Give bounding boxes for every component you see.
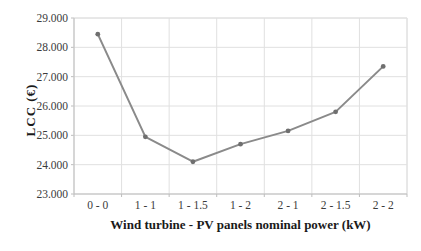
data-point-marker (238, 142, 243, 147)
x-tick-label: 0 - 0 (87, 199, 108, 211)
data-point-marker (286, 129, 291, 134)
x-tick-label: 1 - 1.5 (178, 199, 208, 211)
data-point-marker (333, 109, 338, 114)
y-tick-label: 29.000 (36, 12, 68, 24)
data-point-marker (143, 134, 148, 139)
x-tick-label: 2 - 1 (278, 199, 299, 211)
y-axis-title: LCC (€) (23, 84, 39, 137)
x-axis-title: Wind turbine - PV panels nominal power (… (74, 217, 407, 233)
x-tick-label: 1 - 1 (135, 199, 156, 211)
x-tick-label: 2 - 2 (373, 199, 394, 211)
y-tick-label: 26.000 (36, 100, 68, 112)
y-tick-label: 24.000 (36, 159, 68, 171)
y-tick-label: 25.000 (36, 129, 68, 141)
x-tick-label: 1 - 2 (230, 199, 251, 211)
y-tick-label: 28.000 (36, 41, 68, 53)
plot-area: 23.00024.00025.00026.00027.00028.00029.0… (0, 0, 421, 251)
y-tick-label: 23.000 (36, 188, 68, 200)
data-point-marker (381, 64, 386, 69)
y-tick-label: 27.000 (36, 71, 68, 83)
x-tick-label: 2 - 1.5 (321, 199, 351, 211)
data-point-marker (95, 32, 100, 37)
data-point-marker (191, 159, 196, 164)
chart-container: 23.00024.00025.00026.00027.00028.00029.0… (0, 0, 421, 251)
